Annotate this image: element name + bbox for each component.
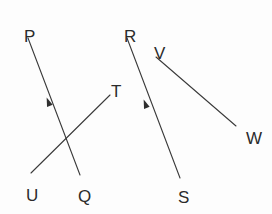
segments-group (28, 38, 236, 178)
vertex-label-v: V (154, 45, 165, 62)
diagram-canvas: PQRSTUVW (0, 0, 272, 214)
vertex-label-t: T (111, 83, 121, 100)
arrowhead-pq (47, 97, 53, 106)
segment-vw (156, 57, 236, 126)
vertex-label-q: Q (78, 188, 91, 205)
vertex-label-p: P (24, 28, 35, 45)
arrowhead-rs (144, 99, 150, 108)
vertex-label-s: S (178, 189, 189, 206)
segment-ut (31, 95, 110, 173)
vertex-label-r: R (124, 28, 136, 45)
vertex-label-w: W (246, 130, 262, 147)
segment-pq (28, 38, 80, 175)
vertex-label-u: U (26, 187, 38, 204)
